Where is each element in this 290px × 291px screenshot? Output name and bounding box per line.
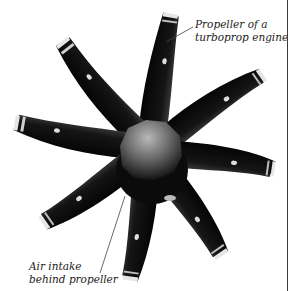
right-border-line: [287, 0, 288, 291]
label-propeller-line1: Propeller of a: [195, 18, 288, 31]
label-air-intake-line1: Air intake: [29, 260, 118, 273]
label-propeller-line2: turboprop engine: [195, 31, 288, 44]
air-intake-glint: [164, 195, 176, 201]
label-air-intake-line2: behind propeller: [29, 273, 118, 286]
diagram-canvas: Propeller of a turboprop engine Air inta…: [0, 0, 290, 291]
label-air-intake: Air intake behind propeller: [29, 260, 118, 286]
label-propeller: Propeller of a turboprop engine: [195, 18, 288, 44]
propeller-hub: [120, 120, 182, 180]
blade-top: [138, 11, 183, 132]
